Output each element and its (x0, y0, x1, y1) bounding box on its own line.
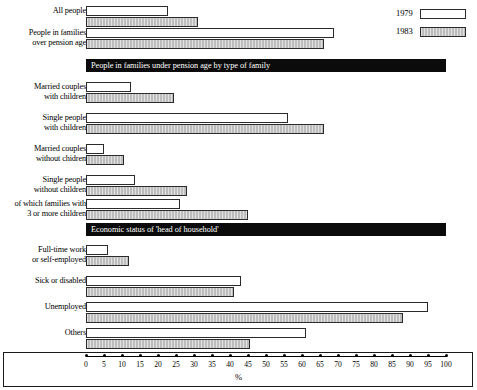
bar-group (86, 6, 198, 27)
axis-tick-label: 25 (172, 360, 180, 369)
axis-tick (337, 354, 340, 357)
axis-tick-label: 45 (244, 360, 252, 369)
axis-tick-label: 40 (226, 360, 234, 369)
row-label: Sick or disabled (2, 276, 86, 286)
row-label: Full-time work or self-employed (2, 245, 86, 264)
row-label: Single people without children (2, 175, 86, 194)
bar-row-sick-or-disabled: Sick or disabled (0, 276, 477, 300)
bar-1983 (86, 155, 124, 165)
axis-tick (355, 354, 358, 357)
axis-tick-label: 70 (334, 360, 342, 369)
x-axis-title: % (0, 372, 477, 382)
axis-tick (265, 354, 268, 357)
bar-row-unemployed: Unemployed (0, 302, 477, 326)
row-label: Single people with children (2, 113, 86, 132)
axis-tick (229, 354, 232, 357)
axis-tick (193, 354, 196, 357)
bar-1979 (86, 302, 428, 312)
axis-tick (121, 354, 124, 357)
axis-tick (319, 354, 322, 357)
axis-tick-label: 35 (208, 360, 216, 369)
axis-tick (409, 354, 412, 357)
bar-1983 (86, 17, 198, 27)
row-label: Others (2, 328, 86, 338)
row-label: All people (2, 6, 86, 16)
axis-tick (175, 354, 178, 357)
axis-tick-label: 100 (440, 360, 451, 369)
bar-1983 (86, 210, 248, 220)
bar-1983 (86, 124, 324, 134)
bar-group (86, 328, 306, 349)
bar-1983 (86, 39, 324, 49)
axis-tick-label: 50 (262, 360, 270, 369)
row-label: Unemployed (2, 302, 86, 312)
axis-tick-label: 20 (154, 360, 162, 369)
axis-tick-label: 90 (406, 360, 414, 369)
bar-row-single-people-with-children: Single people with children (0, 113, 477, 137)
chart-container: 1979 1983 All people People in families … (0, 0, 477, 390)
bar-group (86, 245, 129, 266)
axis-tick-label: 10 (118, 360, 126, 369)
bar-row-people-over-pension-age: People in families over pension age (0, 28, 477, 52)
bar-1983 (86, 287, 234, 297)
row-label: of which families with 3 or more childre… (2, 199, 86, 218)
x-axis: 0510152025303540455055606570758085909510… (86, 356, 446, 357)
bar-1979 (86, 276, 241, 286)
axis-tick (157, 354, 160, 357)
section-banner-family-type: People in families under pension age by … (86, 59, 446, 72)
bar-row-single-people-without-children: Single people without children (0, 175, 477, 199)
bar-group (86, 175, 187, 196)
axis-tick (247, 354, 250, 357)
axis-tick-label: 75 (352, 360, 360, 369)
axis-tick-label: 80 (370, 360, 378, 369)
axis-tick (139, 354, 142, 357)
bar-1983 (86, 93, 174, 103)
bar-1979 (86, 6, 168, 16)
bar-row-married-couples-with-children: Married couples with children (0, 82, 477, 106)
axis-tick (391, 354, 394, 357)
axis-tick (301, 354, 304, 357)
axis-tick (445, 354, 448, 357)
bar-row-families-3-or-more-children: of which families with 3 or more childre… (0, 199, 477, 223)
bar-1979 (86, 28, 334, 38)
axis-tick-label: 95 (424, 360, 432, 369)
bar-row-all-people: All people (0, 6, 477, 30)
bar-1983 (86, 186, 187, 196)
axis-tick-label: 0 (84, 360, 88, 369)
axis-tick (373, 354, 376, 357)
bar-group (86, 199, 248, 220)
axis-tick-label: 30 (190, 360, 198, 369)
section-banner-economic-status: Economic status of 'head of household' (86, 223, 446, 236)
bar-group (86, 302, 428, 323)
axis-tick-label: 85 (388, 360, 396, 369)
row-label: People in families over pension age (2, 28, 86, 47)
axis-tick-label: 15 (136, 360, 144, 369)
bar-1979 (86, 144, 104, 154)
bar-group (86, 276, 241, 297)
axis-tick (103, 354, 106, 357)
bar-1983 (86, 339, 250, 349)
axis-tick (427, 354, 430, 357)
bar-group (86, 144, 124, 165)
bar-1979 (86, 245, 108, 255)
bar-1979 (86, 328, 306, 338)
bar-1979 (86, 175, 135, 185)
axis-tick (283, 354, 286, 357)
bar-1983 (86, 256, 129, 266)
axis-tick (211, 354, 214, 357)
row-label: Married couples without chidren (2, 144, 86, 163)
axis-tick-label: 5 (102, 360, 106, 369)
bar-group (86, 82, 174, 103)
axis-tick-label: 65 (316, 360, 324, 369)
bar-1983 (86, 313, 403, 323)
bar-group (86, 113, 324, 134)
bar-1979 (86, 199, 180, 209)
bar-row-others: Others (0, 328, 477, 352)
bar-1979 (86, 82, 131, 92)
bar-row-married-couples-without-children: Married couples without chidren (0, 144, 477, 168)
bar-group (86, 28, 334, 49)
axis-tick (85, 354, 88, 357)
axis-tick-label: 55 (280, 360, 288, 369)
axis-tick-label: 60 (298, 360, 306, 369)
bar-row-full-time-work: Full-time work or self-employed (0, 245, 477, 269)
